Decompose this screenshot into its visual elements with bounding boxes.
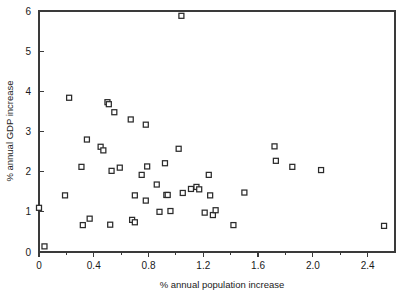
y-axis-tick-labels: 0123456 [25,6,31,258]
y-tick-label-3: 3 [25,126,31,137]
data-point [143,122,148,127]
data-point [132,220,137,225]
y-tick-label-2: 2 [25,166,31,177]
data-point [63,193,68,198]
data-point [67,95,72,100]
data-point [206,172,211,177]
data-point [202,210,207,215]
y-tick-label-6: 6 [25,6,31,17]
x-tick-label-1: 0.4 [87,260,101,271]
y-tick-label-1: 1 [25,206,31,217]
data-point [179,13,184,18]
data-point [319,168,324,173]
data-point [106,102,111,107]
y-tick-label-0: 0 [25,247,31,258]
x-tick-label-5: 2.0 [306,260,320,271]
data-point [84,137,89,142]
y-tick-label-4: 4 [25,86,31,97]
data-point [37,205,42,210]
y-axis-ticks [39,11,44,252]
y-tick-label-5: 5 [25,46,31,57]
data-point [154,182,159,187]
data-point [242,190,247,195]
data-point [80,223,85,228]
data-point [79,164,84,169]
data-point [188,186,193,191]
x-axis-ticks [39,252,368,257]
data-point [117,165,122,170]
data-point [382,223,387,228]
data-point [162,161,167,166]
scatter-plot-svg: 00.40.81.21.62.02.4 0123456 % annual pop… [0,0,404,297]
data-point [165,192,170,197]
data-point [273,158,278,163]
x-axis-title: % annual population increase [160,279,285,290]
data-point [157,209,162,214]
data-point [109,168,114,173]
x-tick-label-6: 2.4 [361,260,375,271]
data-point [180,190,185,195]
data-point [168,209,173,214]
scatter-chart-figure: 00.40.81.21.62.02.4 0123456 % annual pop… [0,0,404,297]
x-tick-label-0: 0 [36,260,42,271]
data-point [139,172,144,177]
data-point [101,148,106,153]
data-point [132,193,137,198]
data-point [197,187,202,192]
data-point [208,193,213,198]
data-point [112,110,117,115]
data-point [108,222,113,227]
y-axis-title: % annual GDP increase [4,80,15,181]
x-tick-label-2: 0.8 [142,260,156,271]
data-point [272,144,277,149]
data-point [128,117,133,122]
data-point [145,164,150,169]
x-tick-label-4: 1.6 [251,260,265,271]
data-points-layer [37,13,387,249]
data-point [87,216,92,221]
data-point [231,223,236,228]
data-point [213,208,218,213]
data-point [42,244,47,249]
data-point [290,164,295,169]
data-point [143,198,148,203]
x-tick-label-3: 1.2 [196,260,210,271]
data-point [176,146,181,151]
x-axis-tick-labels: 00.40.81.21.62.02.4 [36,260,375,271]
